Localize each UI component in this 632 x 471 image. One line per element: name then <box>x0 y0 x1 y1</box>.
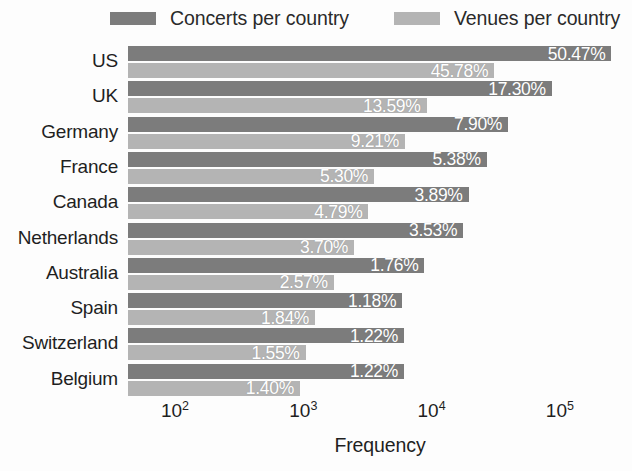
bar-value-label: 5.30% <box>290 166 368 187</box>
bar-row: 5.30% <box>128 169 632 184</box>
bar-row: 1.18% <box>128 293 632 308</box>
y-axis-label-us: US <box>92 50 118 72</box>
bar-row: 13.59% <box>128 98 632 113</box>
y-axis-category-labels: USUKGermanyFranceCanadaNetherlandsAustra… <box>0 44 128 397</box>
y-axis-label-switzerland: Switzerland <box>22 332 118 354</box>
x-axis-tick-10e3: 103 <box>289 400 317 422</box>
bar-value-label: 5.38% <box>403 149 481 170</box>
bar-value-label: 1.40% <box>216 378 294 399</box>
bar-row: 3.53% <box>128 223 632 238</box>
bar-value-label: 3.70% <box>270 237 348 258</box>
bar-row: 1.84% <box>128 310 632 325</box>
bar-value-label: 9.21% <box>321 131 399 152</box>
bar-value-label: 1.55% <box>222 342 300 363</box>
bar-value-label: 1.76% <box>340 255 418 276</box>
bar-row: 1.22% <box>128 328 632 343</box>
y-axis-label-uk: UK <box>92 85 118 107</box>
bar-row: 9.21% <box>128 134 632 149</box>
bar-value-label: 1.22% <box>320 361 398 382</box>
plot-area: 50.47%45.78%17.30%13.59%7.90%9.21%5.38%5… <box>128 44 632 397</box>
legend-entry-concerts[interactable]: Concerts per country <box>110 6 349 30</box>
bar-chart-figure: Concerts per country Venues per country … <box>0 0 632 471</box>
bar-value-label: 4.79% <box>284 201 362 222</box>
bar-row: 3.70% <box>128 240 632 255</box>
bar-row: 17.30% <box>128 81 632 96</box>
bar-row: 50.47% <box>128 46 632 61</box>
legend-label-concerts: Concerts per country <box>170 7 349 30</box>
bar-value-label: 3.53% <box>379 220 457 241</box>
bar-row: 45.78% <box>128 63 632 78</box>
bar-row: 7.90% <box>128 117 632 132</box>
bar-value-label: 17.30% <box>468 78 546 99</box>
bar-row: 2.57% <box>128 275 632 290</box>
y-axis-label-netherlands: Netherlands <box>18 227 118 249</box>
bar-value-label: 1.84% <box>231 307 309 328</box>
bar-row: 1.55% <box>128 345 632 360</box>
bar-value-label: 13.59% <box>343 95 421 116</box>
x-axis-tick-10e5: 105 <box>546 400 574 422</box>
y-axis-label-germany: Germany <box>41 121 118 143</box>
x-axis-tick-10e4: 104 <box>418 400 446 422</box>
chart-legend: Concerts per country Venues per country <box>0 6 632 32</box>
bar-row: 1.76% <box>128 258 632 273</box>
y-axis-label-france: France <box>60 156 118 178</box>
bar-value-label: 1.22% <box>320 325 398 346</box>
x-axis-tick-10e2: 102 <box>161 400 189 422</box>
y-axis-label-spain: Spain <box>70 297 118 319</box>
bar-row: 3.89% <box>128 187 632 202</box>
y-axis-label-australia: Australia <box>46 262 118 284</box>
legend-swatch-venues-icon <box>394 12 440 25</box>
bar-row: 4.79% <box>128 204 632 219</box>
bar-value-label: 3.89% <box>385 184 463 205</box>
bar-row: 1.22% <box>128 364 632 379</box>
bar-value-label: 7.90% <box>424 114 502 135</box>
bar-value-label: 2.57% <box>250 272 328 293</box>
legend-label-venues: Venues per country <box>454 7 620 30</box>
y-axis-label-canada: Canada <box>53 191 118 213</box>
bar-row: 1.40% <box>128 381 632 396</box>
x-axis-title: Frequency <box>128 434 632 457</box>
legend-entry-venues[interactable]: Venues per country <box>394 6 620 30</box>
y-axis-label-belgium: Belgium <box>51 368 118 390</box>
bar-value-label: 50.47% <box>527 43 605 64</box>
bar-value-label: 1.18% <box>318 290 396 311</box>
bar-row: 5.38% <box>128 152 632 167</box>
legend-swatch-concerts-icon <box>110 12 156 25</box>
